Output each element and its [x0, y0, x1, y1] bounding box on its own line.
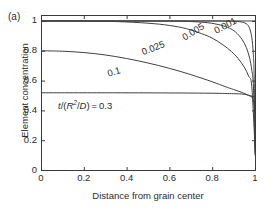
curve-0.001	[41, 21, 255, 155]
eqn-t: t	[58, 100, 61, 111]
eqn-exp: 2	[73, 99, 77, 106]
figure-panel-a: (a) Element concentration Distance from …	[0, 0, 272, 213]
eqn-D: D	[80, 100, 87, 111]
eqn-value: 0.3	[99, 100, 112, 111]
curve-0.025	[41, 21, 255, 148]
curve-0.3	[41, 93, 255, 97]
annotation-equation: t/(R2/D) = 0.3	[58, 99, 112, 111]
x-axis-label: Distance from grain center	[41, 190, 255, 201]
curve-0.005	[41, 21, 255, 152]
curves-group	[41, 21, 255, 155]
